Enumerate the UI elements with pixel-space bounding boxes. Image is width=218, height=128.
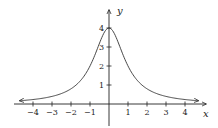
svg-text:−3: −3: [46, 108, 58, 117]
svg-text:1: 1: [99, 81, 104, 90]
y-ticks: 1234: [99, 24, 112, 90]
svg-text:3: 3: [99, 43, 104, 52]
x-axis-label: x: [203, 108, 209, 119]
svg-text:4: 4: [182, 108, 187, 117]
svg-text:1: 1: [125, 108, 130, 117]
svg-text:−4: −4: [27, 108, 39, 117]
svg-text:2: 2: [144, 108, 149, 117]
svg-text:−1: −1: [84, 108, 96, 117]
svg-text:2: 2: [99, 62, 104, 71]
chart: −4−3−2−11234 1234 x y: [0, 0, 218, 128]
y-axis-label: y: [116, 5, 123, 16]
svg-text:3: 3: [163, 108, 168, 117]
svg-text:−2: −2: [65, 108, 77, 117]
svg-text:4: 4: [99, 24, 104, 33]
